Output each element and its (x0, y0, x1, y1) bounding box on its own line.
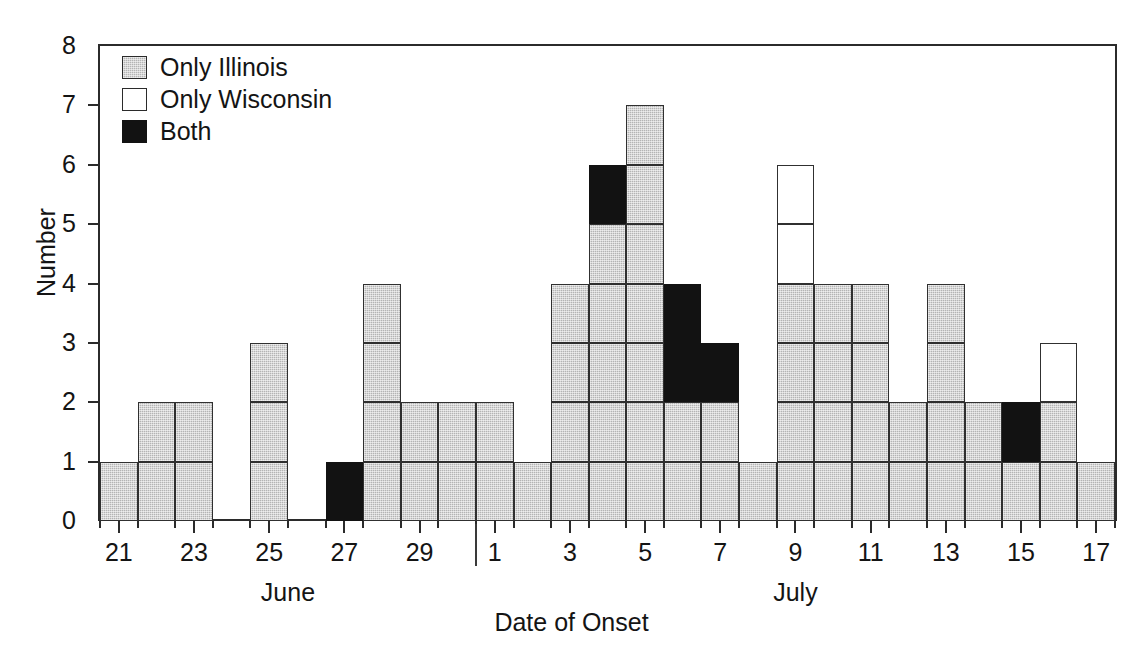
x-minor-tick-mark (325, 521, 327, 528)
legend-item-wisconsin: Only Wisconsin (122, 86, 332, 112)
x-tick-label: 11 (841, 538, 901, 567)
y-tick-label: 2 (30, 389, 76, 414)
x-minor-tick-mark (738, 521, 740, 528)
month-separator (475, 524, 477, 566)
bar-segment (551, 343, 589, 402)
bar-segment (589, 284, 627, 343)
x-minor-tick-mark (700, 521, 702, 528)
chart-legend: Only IllinoisOnly WisconsinBoth (122, 54, 332, 144)
bar-segment (927, 343, 965, 402)
y-axis-label: Number (32, 173, 61, 333)
x-minor-tick-mark (1001, 521, 1003, 528)
x-tick-mark (870, 521, 872, 533)
month-label-june: June (208, 578, 368, 607)
bar-segment (401, 462, 439, 521)
bar-segment (1040, 462, 1078, 521)
x-minor-tick-mark (137, 521, 139, 528)
bar-segment (1040, 343, 1078, 402)
bar-segment (175, 462, 213, 521)
x-minor-tick-mark (362, 521, 364, 528)
bar-segment (589, 462, 627, 521)
bar-segment (401, 402, 439, 461)
bar-segment (626, 284, 664, 343)
x-minor-tick-mark (588, 521, 590, 528)
x-tick-label: 5 (615, 538, 675, 567)
x-minor-tick-mark (400, 521, 402, 528)
x-minor-tick-mark (287, 521, 289, 528)
x-minor-tick-mark (437, 521, 439, 528)
bar-segment (589, 224, 627, 283)
bar-segment (852, 284, 890, 343)
legend-label: Only Illinois (160, 54, 288, 80)
bar-segment (1002, 402, 1040, 461)
x-minor-tick-mark (212, 521, 214, 528)
bar-segment (701, 402, 739, 461)
x-axis-label: Date of Onset (0, 608, 1143, 637)
x-tick-mark (1020, 521, 1022, 533)
x-tick-mark (268, 521, 270, 533)
x-minor-tick-mark (663, 521, 665, 528)
x-minor-tick-mark (625, 521, 627, 528)
bar-segment (626, 105, 664, 164)
legend-item-illinois: Only Illinois (122, 54, 332, 80)
bar-segment (777, 402, 815, 461)
bar-segment (138, 462, 176, 521)
bar-segment (138, 402, 176, 461)
x-tick-label: 25 (239, 538, 299, 567)
y-tick-label: 1 (30, 449, 76, 474)
bar-segment (363, 343, 401, 402)
x-tick-label: 3 (540, 538, 600, 567)
bar-segment (664, 402, 702, 461)
bar-segment (852, 462, 890, 521)
x-minor-tick-mark (888, 521, 890, 528)
bar-segment (777, 462, 815, 521)
bar-segment (476, 462, 514, 521)
bar-segment (889, 402, 927, 461)
y-tick-label: 8 (30, 33, 76, 58)
x-minor-tick-mark (1076, 521, 1078, 528)
x-tick-label: 1 (465, 538, 525, 567)
x-tick-mark (118, 521, 120, 533)
y-tick-label: 3 (30, 330, 76, 355)
legend-swatch-icon-illinois (122, 56, 147, 79)
x-tick-mark (419, 521, 421, 533)
x-tick-label: 23 (164, 538, 224, 567)
y-tick-label: 5 (30, 211, 76, 236)
x-minor-tick-mark (249, 521, 251, 528)
bar-segment (626, 343, 664, 402)
bar-segment (589, 165, 627, 224)
bar-segment (326, 462, 364, 521)
bar-segment (589, 343, 627, 402)
bar-segment (965, 402, 1003, 461)
bar-segment (363, 462, 401, 521)
bar-segment (777, 224, 815, 283)
x-tick-mark (794, 521, 796, 533)
legend-swatch-icon-wisconsin (122, 88, 147, 111)
bar-segment (626, 402, 664, 461)
bar-segment (438, 462, 476, 521)
bar-segment (701, 462, 739, 521)
bar-segment (589, 402, 627, 461)
legend-item-both: Both (122, 118, 332, 144)
bar-segment (965, 462, 1003, 521)
x-minor-tick-mark (926, 521, 928, 528)
bar-segment (626, 165, 664, 224)
bar-segment (250, 462, 288, 521)
epidemic-curve-chart: Number 012345678 21232527291357911131517… (0, 0, 1143, 646)
x-tick-label: 17 (1066, 538, 1126, 567)
bar-segment (852, 402, 890, 461)
bar-segment (927, 462, 965, 521)
bar-segment (250, 343, 288, 402)
bar-segment (664, 462, 702, 521)
x-minor-tick-mark (550, 521, 552, 528)
x-tick-label: 9 (765, 538, 825, 567)
legend-swatch-icon-both (122, 120, 147, 143)
bar-segment (701, 343, 739, 402)
x-minor-tick-mark (851, 521, 853, 528)
y-tick-label: 0 (30, 508, 76, 533)
bar-segment (664, 343, 702, 402)
x-minor-tick-mark (1039, 521, 1041, 528)
bar-segment (777, 343, 815, 402)
month-label-july: July (715, 578, 875, 607)
x-tick-mark (494, 521, 496, 533)
